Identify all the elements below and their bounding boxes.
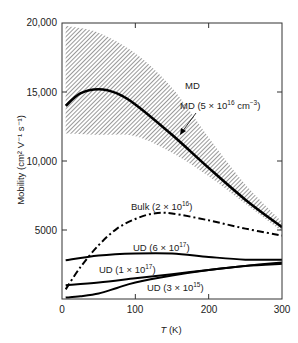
md-curve-label: MD (5 × 1016 cm−3): [180, 99, 260, 111]
y-axis-label: Mobility (cm² V⁻¹ s⁻¹): [15, 115, 26, 205]
y-tick-10000: 10,000: [26, 156, 57, 167]
x-tick-0: 0: [59, 304, 65, 315]
y-tick-20000: 20,000: [26, 17, 57, 28]
ud-3e15-label: UD (3 × 1015): [147, 281, 204, 293]
ud-1e17-label: UD (1 × 1017): [99, 263, 156, 275]
x-tick-300: 300: [274, 304, 291, 315]
y-tick-15000: 15,000: [26, 87, 57, 98]
mobility-chart: 0 100 200 300 5000 10,000 15,000 20,000 …: [0, 0, 298, 343]
bulk-label: Bulk (2 × 1016): [131, 200, 192, 212]
md-band-label: MD: [185, 80, 200, 91]
ud-6e17-label: UD (6 × 1017): [133, 241, 190, 253]
x-tick-200: 200: [201, 304, 218, 315]
x-axis-label: T (K): [160, 324, 181, 335]
ud-6e17-curve: [66, 253, 282, 260]
x-tick-100: 100: [127, 304, 144, 315]
y-tick-5000: 5000: [35, 225, 58, 236]
